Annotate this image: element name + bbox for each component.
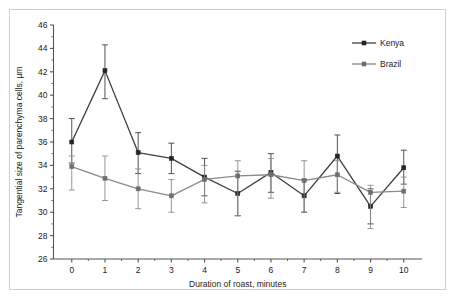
line-chart: 2628303234363840424446012345678910Durati… bbox=[0, 0, 455, 303]
data-point-kenya bbox=[402, 166, 406, 170]
data-point-brazil bbox=[369, 190, 373, 194]
figure-root: 2628303234363840424446012345678910Durati… bbox=[0, 0, 455, 303]
legend-label-brazil: Brazil bbox=[380, 59, 401, 69]
data-point-kenya bbox=[335, 154, 339, 158]
y-tick-label: 28 bbox=[38, 231, 48, 241]
data-point-kenya bbox=[136, 151, 140, 155]
data-point-brazil bbox=[203, 177, 207, 181]
x-tick-label: 8 bbox=[335, 265, 340, 275]
x-axis-title: Duration of roast, minutes bbox=[189, 279, 286, 289]
legend-marker-brazil bbox=[362, 62, 366, 66]
x-tick-label: 3 bbox=[169, 265, 174, 275]
y-tick-label: 38 bbox=[38, 114, 48, 124]
y-tick-label: 30 bbox=[38, 207, 48, 217]
data-point-brazil bbox=[402, 189, 406, 193]
x-tick-label: 10 bbox=[399, 265, 409, 275]
x-tick-label: 7 bbox=[302, 265, 307, 275]
data-point-kenya bbox=[103, 69, 107, 73]
y-tick-label: 32 bbox=[38, 184, 48, 194]
data-point-brazil bbox=[136, 187, 140, 191]
data-point-brazil bbox=[70, 165, 74, 169]
data-point-brazil bbox=[236, 174, 240, 178]
y-tick-label: 40 bbox=[38, 90, 48, 100]
data-point-kenya bbox=[169, 156, 173, 160]
x-tick-label: 1 bbox=[103, 265, 108, 275]
x-tick-label: 0 bbox=[69, 265, 74, 275]
data-point-kenya bbox=[70, 140, 74, 144]
data-point-brazil bbox=[335, 173, 339, 177]
x-tick-label: 5 bbox=[235, 265, 240, 275]
y-tick-label: 36 bbox=[38, 137, 48, 147]
y-tick-label: 44 bbox=[38, 43, 48, 53]
x-tick-label: 6 bbox=[269, 265, 274, 275]
data-point-brazil bbox=[302, 179, 306, 183]
y-axis-title: Tangential size of parenchyma cells, µm bbox=[14, 67, 24, 218]
y-tick-label: 42 bbox=[38, 67, 48, 77]
data-point-brazil bbox=[269, 173, 273, 177]
y-tick-label: 46 bbox=[38, 20, 48, 30]
data-point-brazil bbox=[169, 194, 173, 198]
x-tick-label: 9 bbox=[368, 265, 373, 275]
y-tick-label: 34 bbox=[38, 160, 48, 170]
data-point-brazil bbox=[103, 176, 107, 180]
y-tick-label: 26 bbox=[38, 254, 48, 264]
x-tick-label: 2 bbox=[136, 265, 141, 275]
legend-marker-kenya bbox=[362, 41, 366, 45]
x-tick-label: 4 bbox=[202, 265, 207, 275]
legend-label-kenya: Kenya bbox=[380, 38, 404, 48]
